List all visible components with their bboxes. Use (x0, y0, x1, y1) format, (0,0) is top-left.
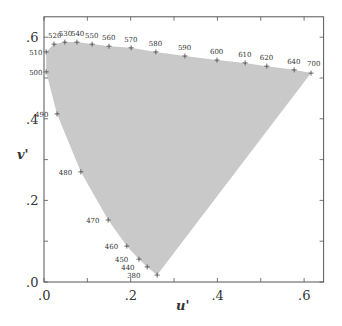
wavelength-label: 640 (287, 58, 300, 66)
wavelength-label: 550 (85, 32, 98, 40)
x-tick-label: .4 (211, 288, 223, 303)
wavelength-label: 590 (178, 44, 191, 52)
x-tick-label: .6 (298, 288, 310, 303)
x-tick-label: .0 (38, 288, 50, 303)
wavelength-label: 470 (86, 217, 99, 225)
wavelength-marker-480: 480 (59, 169, 84, 177)
plot-area: 3804404504604704804905005105205305405505… (29, 30, 320, 280)
wavelength-marker-490: 490 (35, 111, 60, 119)
wavelength-label: 700 (307, 60, 320, 68)
x-tick-label: .2 (125, 288, 137, 303)
wavelength-label: 560 (102, 34, 115, 42)
wavelength-label: 610 (238, 51, 251, 59)
wavelength-marker-470: 470 (86, 217, 111, 225)
wavelength-marker-510: 510 (29, 49, 49, 57)
wavelength-label: 380 (127, 272, 140, 280)
wavelength-label: 500 (29, 69, 42, 77)
wavelength-marker-380: 380 (127, 272, 159, 280)
cie-uv-chromaticity-chart: 3804404504604704804905005105205305405505… (0, 0, 342, 326)
y-tick-label: .2 (26, 193, 38, 208)
wavelength-label: 600 (210, 48, 223, 56)
wavelength-label: 510 (29, 49, 42, 57)
x-axis-label: u' (176, 298, 189, 313)
wavelength-label: 480 (59, 169, 72, 177)
wavelength-label: 570 (124, 36, 137, 44)
wavelength-label: 440 (121, 264, 134, 272)
wavelength-marker-700: 700 (307, 60, 320, 76)
y-tick-label: .6 (26, 30, 38, 45)
spectral-locus-region (46, 42, 311, 275)
wavelength-label: 540 (71, 30, 84, 38)
wavelength-label: 450 (115, 256, 128, 264)
y-tick-label: .4 (26, 112, 38, 127)
y-tick-label: .0 (26, 275, 38, 290)
wavelength-label: 580 (149, 40, 162, 48)
wavelength-label: 620 (260, 54, 273, 62)
wavelength-label: 460 (105, 243, 118, 251)
y-axis-label: v' (17, 147, 29, 162)
wavelength-marker-500: 500 (29, 69, 49, 77)
